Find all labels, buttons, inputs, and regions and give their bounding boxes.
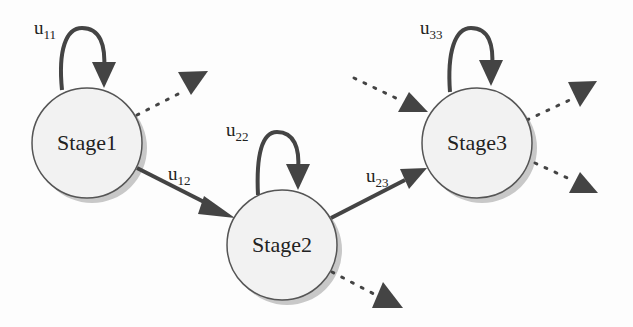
node-stage1: Stage1 (32, 88, 142, 198)
edge-stage2-out-dotted (332, 272, 403, 308)
arrowhead-icon (372, 282, 403, 308)
diagram-svg: u11 u22 u33 u12 u23 (0, 0, 633, 327)
arrowhead-icon (198, 196, 235, 218)
edge-label-u23: u23 (366, 165, 389, 190)
arrowhead-icon (398, 92, 428, 112)
arrowhead-icon (479, 60, 503, 86)
edge-label-u22: u22 (226, 119, 249, 144)
arrowhead-icon (92, 62, 116, 88)
node-stage3: Stage3 (422, 88, 532, 198)
arrowhead-icon (568, 81, 597, 107)
edge-u11: u11 (34, 17, 116, 90)
node-label-stage2: Stage2 (252, 232, 312, 257)
edge-stage3-out-dotted-upper (527, 81, 597, 120)
edge-u33: u33 (420, 17, 503, 92)
edge-label-u33: u33 (420, 17, 443, 42)
arrowhead-icon (178, 71, 208, 95)
node-label-stage1: Stage1 (57, 130, 117, 155)
arrowhead-icon (286, 164, 310, 190)
edge-u12: u12 (137, 163, 235, 218)
node-label-stage3: Stage3 (447, 130, 507, 155)
edge-stage3-in-dotted (354, 78, 428, 112)
edge-stage3-out-dotted-lower (535, 163, 598, 193)
edge-label-u11: u11 (34, 17, 56, 42)
edge-u22: u22 (226, 119, 310, 195)
edge-u23: u23 (331, 165, 427, 218)
arrowhead-icon (569, 172, 598, 193)
node-stage2: Stage2 (227, 190, 337, 300)
stage-diagram: u11 u22 u33 u12 u23 (0, 0, 633, 327)
edge-stage1-out-dotted (137, 71, 208, 115)
